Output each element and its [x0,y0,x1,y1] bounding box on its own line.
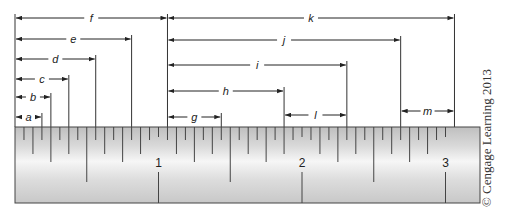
inch-number: 3 [442,156,449,170]
dimension-c: c [16,73,68,85]
dimension-g: g [168,111,220,123]
inch-number: 1 [155,156,162,170]
dimension-label: d [52,53,59,65]
dimension-h: h [168,85,283,97]
dimension-label: a [25,111,31,123]
dimension-label: b [30,91,36,103]
inch-number: 2 [299,156,306,170]
dimension-label: f [90,12,94,24]
dimension-m: m [402,105,454,117]
dimension-label: m [423,105,432,117]
dimension-label: g [191,111,198,123]
ruler-diagram: abcdefghijklm 123 [0,0,510,219]
copyright-credit: © Cengage Learning 2013 [479,69,495,207]
extension-lines [15,14,454,127]
dimension-label: k [308,12,314,24]
ruler-body [15,127,480,203]
dimension-a: a [16,111,41,123]
dimension-l: l [285,109,346,121]
dimension-i: i [168,59,345,71]
dimension-b: b [16,91,50,103]
dimension-k: k [168,12,453,24]
dimension-label: l [314,109,317,121]
dimension-label: c [39,73,45,85]
ruler: 123 [15,127,480,203]
dimension-d: d [16,53,95,65]
dimension-j: j [168,34,399,46]
dimension-e: e [16,33,131,45]
dimension-label: i [256,59,259,71]
dimension-label: e [70,33,76,45]
dimension-lines: abcdefghijklm [16,12,453,123]
dimension-label: h [223,85,229,97]
dimension-label: j [281,34,286,46]
dimension-f: f [16,12,166,24]
